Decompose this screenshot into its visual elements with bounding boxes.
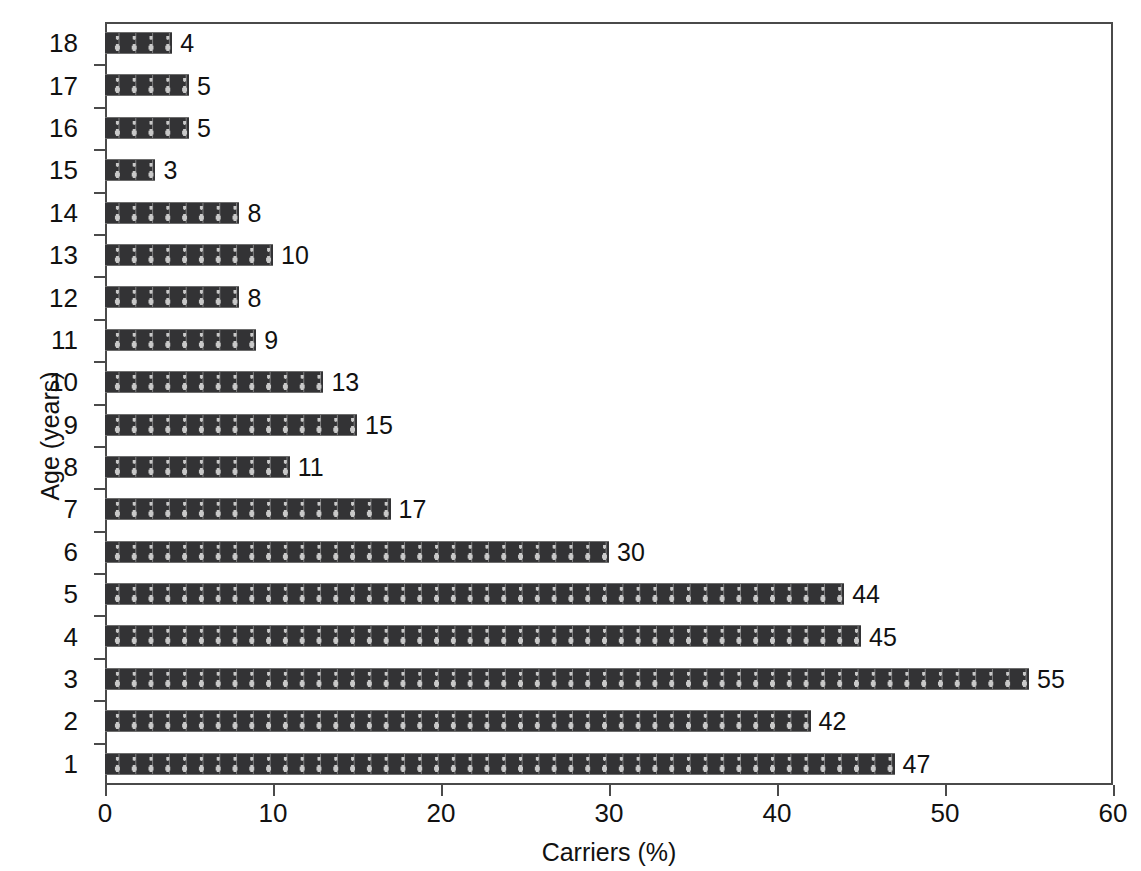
y-axis-tick <box>94 404 105 406</box>
x-axis-tick <box>1113 785 1115 796</box>
y-axis-tick-label: 6 <box>64 536 78 567</box>
y-axis-tick <box>94 276 105 278</box>
x-axis-tick <box>273 785 275 796</box>
y-axis-tick <box>94 446 105 448</box>
x-axis-tick-label: 50 <box>931 798 960 829</box>
x-axis-title: Carriers (%) <box>105 838 1113 867</box>
bar[interactable] <box>105 117 189 139</box>
bar[interactable] <box>105 498 391 520</box>
y-axis-tick-label: 17 <box>49 70 78 101</box>
x-axis-tick-label: 60 <box>1099 798 1128 829</box>
bar-row: 3 <box>105 149 1113 191</box>
y-axis-tick <box>94 488 105 490</box>
bar[interactable] <box>105 329 256 351</box>
bar-row: 30 <box>105 531 1113 573</box>
bar-row: 5 <box>105 107 1113 149</box>
x-axis-tick <box>441 785 443 796</box>
bar-value-label: 3 <box>163 156 177 185</box>
bar-row: 47 <box>105 743 1113 785</box>
y-axis-title: Age (years) <box>36 346 65 526</box>
bar-row: 17 <box>105 488 1113 530</box>
bar-value-label: 13 <box>331 368 359 397</box>
bar-row: 5 <box>105 64 1113 106</box>
y-axis-tick-label: 12 <box>49 282 78 313</box>
bar-row: 42 <box>105 700 1113 742</box>
bar-value-label: 4 <box>180 29 194 58</box>
y-axis-tick-label: 2 <box>64 706 78 737</box>
bar-value-label: 42 <box>819 707 847 736</box>
y-axis-tick <box>94 319 105 321</box>
bar-value-label: 47 <box>903 749 931 778</box>
bar[interactable] <box>105 32 172 54</box>
bars-layer: 45538108913151117304445554247 <box>105 22 1113 785</box>
y-axis-tick-label: 14 <box>49 197 78 228</box>
x-axis-tick-label: 20 <box>427 798 456 829</box>
y-axis-tick-label: 5 <box>64 579 78 610</box>
bar-value-label: 15 <box>365 410 393 439</box>
x-axis-tick-labels: 0102030405060 <box>105 798 1113 838</box>
bar[interactable] <box>105 74 189 96</box>
bar-value-label: 30 <box>617 537 645 566</box>
bar-row: 45 <box>105 615 1113 657</box>
bar[interactable] <box>105 244 273 266</box>
bar[interactable] <box>105 625 861 647</box>
y-axis-tick <box>94 531 105 533</box>
bar[interactable] <box>105 371 323 393</box>
bar-row: 13 <box>105 361 1113 403</box>
y-axis-tick <box>94 107 105 109</box>
bar[interactable] <box>105 668 1029 690</box>
bar[interactable] <box>105 414 357 436</box>
y-axis-tick-label: 9 <box>64 409 78 440</box>
y-axis-tick-label: 3 <box>64 664 78 695</box>
y-axis-tick <box>94 192 105 194</box>
bar-value-label: 10 <box>281 241 309 270</box>
y-axis-tick-label: 13 <box>49 240 78 271</box>
bar-value-label: 11 <box>298 453 324 482</box>
y-axis-tick <box>94 700 105 702</box>
bar-row: 4 <box>105 22 1113 64</box>
y-axis-tick-label: 16 <box>49 112 78 143</box>
bar[interactable] <box>105 753 895 775</box>
x-axis-tick <box>945 785 947 796</box>
y-axis-tick-label: 15 <box>49 155 78 186</box>
bar-row: 8 <box>105 192 1113 234</box>
x-axis-ticks <box>105 785 1113 799</box>
bar-row: 9 <box>105 319 1113 361</box>
y-axis-tick <box>94 361 105 363</box>
bar[interactable] <box>105 202 239 224</box>
bar-value-label: 17 <box>399 495 427 524</box>
y-axis-tick-label: 1 <box>64 748 78 779</box>
chart-figure: 45538108913151117304445554247 1817161514… <box>0 0 1141 871</box>
bar[interactable] <box>105 159 155 181</box>
bar-value-label: 9 <box>264 325 278 354</box>
x-axis-tick-label: 10 <box>259 798 288 829</box>
bar-row: 8 <box>105 276 1113 318</box>
x-axis-tick <box>777 785 779 796</box>
x-axis-tick-label: 0 <box>98 798 112 829</box>
bar-row: 10 <box>105 234 1113 276</box>
y-axis-tick <box>94 743 105 745</box>
y-axis-tick <box>94 234 105 236</box>
y-axis-tick-label: 8 <box>64 452 78 483</box>
y-axis-tick <box>94 658 105 660</box>
bar[interactable] <box>105 541 609 563</box>
bar[interactable] <box>105 710 811 732</box>
x-axis-tick-label: 40 <box>763 798 792 829</box>
bar[interactable] <box>105 456 290 478</box>
y-axis-tick <box>94 64 105 66</box>
bar-row: 44 <box>105 573 1113 615</box>
bar-value-label: 8 <box>247 283 261 312</box>
bar-value-label: 55 <box>1037 665 1065 694</box>
y-axis-tick-label: 18 <box>49 28 78 59</box>
x-axis-tick <box>105 785 107 796</box>
y-axis-tick <box>94 573 105 575</box>
bar-value-label: 45 <box>869 622 897 651</box>
bar-value-label: 8 <box>247 198 261 227</box>
bar[interactable] <box>105 286 239 308</box>
bar-row: 15 <box>105 404 1113 446</box>
bar-value-label: 44 <box>852 580 880 609</box>
bar-value-label: 5 <box>197 113 211 142</box>
bar-value-label: 5 <box>197 71 211 100</box>
bar-row: 11 <box>105 446 1113 488</box>
bar[interactable] <box>105 583 844 605</box>
